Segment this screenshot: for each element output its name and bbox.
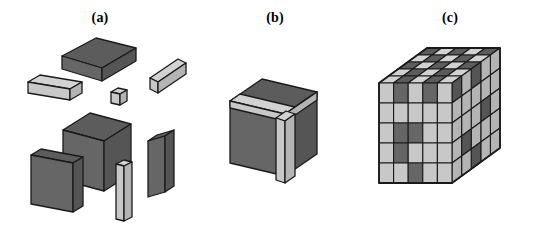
- panel-c: (c): [350, 0, 550, 226]
- panel-a-graphic: [0, 0, 200, 226]
- light-bar-right: [150, 59, 186, 93]
- light-column: [116, 160, 132, 221]
- panel-a: (a): [0, 0, 200, 226]
- cube-cell-front: [379, 123, 394, 143]
- cube-cell-front: [423, 103, 438, 123]
- light-small-cube: [111, 88, 127, 105]
- cube-cell-front: [379, 83, 394, 103]
- cube-cell-front: [394, 123, 409, 143]
- cube-cell-front: [379, 163, 394, 183]
- cube-cell-front: [408, 123, 423, 143]
- dark-flat-slab: [62, 38, 136, 81]
- cube-cell-front: [408, 83, 423, 103]
- cube-cell-front: [408, 163, 423, 183]
- panel-b-graphic: [200, 0, 350, 226]
- light-bar-left: [28, 75, 82, 100]
- cube-cell-front: [423, 83, 438, 103]
- cube-cell-front: [408, 143, 423, 163]
- light-strip-vertical: [276, 111, 295, 183]
- cube-cell-front: [437, 83, 452, 103]
- cube-cell-front: [437, 143, 452, 163]
- cube-cell-front: [423, 143, 438, 163]
- cube-cell-front: [423, 163, 438, 183]
- dark-plate-left: [31, 149, 83, 212]
- figure-container: (a): [0, 0, 550, 226]
- cube-cell-front: [437, 163, 452, 183]
- cube-cell-front: [423, 123, 438, 143]
- cube-cell-front: [394, 143, 409, 163]
- cube-cell-front: [379, 143, 394, 163]
- cube-cell-front: [394, 163, 409, 183]
- panel-c-graphic: [350, 0, 550, 226]
- dark-plate-right: [148, 130, 174, 197]
- panel-b: (b): [200, 0, 350, 226]
- cube-cell-front: [379, 103, 394, 123]
- cube-cell-front: [437, 103, 452, 123]
- cube-cell-front: [394, 103, 409, 123]
- cube-cell-front: [408, 103, 423, 123]
- cube-cell-front: [394, 83, 409, 103]
- dark-body-cube: [230, 79, 317, 176]
- cube-cell-front: [437, 123, 452, 143]
